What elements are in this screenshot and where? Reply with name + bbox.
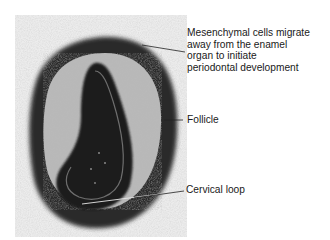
label-line: away from the enamel [187, 39, 310, 51]
label-line: Mesenchymal cells migrate [187, 27, 310, 39]
label-follicle: Follicle [187, 114, 219, 126]
label-line: organ to initiate [187, 50, 310, 62]
label-mesenchymal-cells: Mesenchymal cells migrate away from the … [187, 27, 310, 73]
label-cervical-loop: Cervical loop [186, 184, 245, 196]
label-line: periodontal development [187, 62, 310, 74]
